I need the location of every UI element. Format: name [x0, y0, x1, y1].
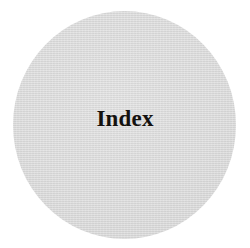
index-label: Index: [0, 104, 250, 133]
page-root: Index: [0, 0, 250, 248]
